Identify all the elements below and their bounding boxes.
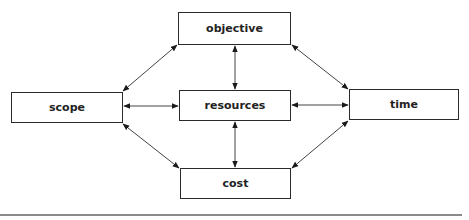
node-time: time xyxy=(349,89,459,120)
node-objective-label: objective xyxy=(206,22,263,35)
node-cost-label: cost xyxy=(223,177,249,190)
node-time-label: time xyxy=(390,98,418,111)
edge-objective-time xyxy=(292,45,348,89)
node-objective: objective xyxy=(178,12,291,45)
edge-time-cost xyxy=(292,121,348,168)
node-scope: scope xyxy=(11,92,123,123)
bottom-rule-divider xyxy=(0,214,462,216)
node-resources: resources xyxy=(179,90,291,121)
edge-scope-cost xyxy=(123,124,179,168)
node-resources-label: resources xyxy=(205,99,266,112)
node-cost: cost xyxy=(180,168,291,199)
node-scope-label: scope xyxy=(49,101,85,114)
edge-objective-scope xyxy=(123,45,177,91)
